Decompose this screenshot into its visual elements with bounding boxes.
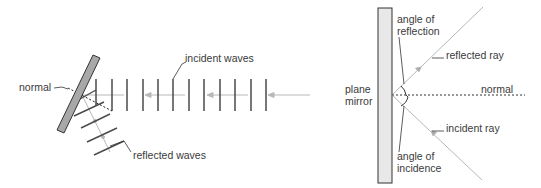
reflected-wavefronts xyxy=(74,90,124,155)
angle-of-incidence-label-line2: incidence xyxy=(397,162,441,174)
reflected-ray-label: reflected ray xyxy=(446,49,504,61)
incident-ray-label: incident ray xyxy=(446,122,500,134)
normal-label-right: normal xyxy=(481,83,513,95)
incident-waves-label: incident waves xyxy=(185,52,254,64)
reflected-waves-label: reflected waves xyxy=(133,149,206,161)
normal-label-left: normal xyxy=(19,81,51,93)
incident-waves-leader xyxy=(173,62,186,79)
incident-wave-rays xyxy=(82,93,310,98)
angle-of-reflection-label-line2: reflection xyxy=(397,25,440,37)
angle-of-reflection-leader xyxy=(399,37,404,84)
plane-mirror-label-line2: mirror xyxy=(345,95,372,107)
angle-of-incidence-label-line1: angle of xyxy=(397,150,434,162)
angle-of-reflection-arc xyxy=(401,86,406,95)
plane-mirror-label-line1: plane xyxy=(345,83,371,95)
angle-of-reflection-label-line1: angle of xyxy=(397,13,434,25)
plane-mirror xyxy=(378,8,392,183)
angle-of-incidence-leader xyxy=(399,106,404,152)
reflection-diagrams xyxy=(0,0,541,188)
normal-leader-left xyxy=(54,87,68,89)
